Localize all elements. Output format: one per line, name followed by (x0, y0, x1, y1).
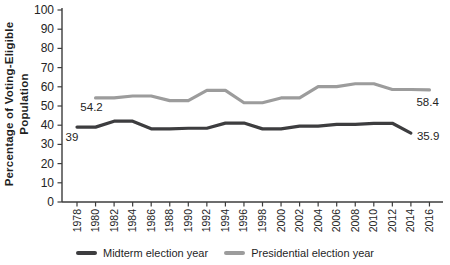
x-tick-label: 1994 (219, 209, 231, 233)
x-tick-label: 2012 (386, 209, 398, 233)
x-tick-label: 2004 (312, 209, 324, 233)
y-tick-label: 30 (41, 137, 55, 151)
x-tick-label: 1990 (182, 209, 194, 233)
midterm-line-swatch (76, 251, 97, 255)
y-tick-label: 80 (41, 41, 55, 55)
y-tick-label: 70 (41, 61, 55, 75)
y-tick-label: 40 (41, 118, 55, 132)
x-tick-label: 2000 (275, 209, 287, 233)
x-tick-label: 1984 (126, 209, 138, 233)
x-tick-label: 2006 (330, 209, 342, 233)
y-tick-label: 100 (34, 3, 54, 17)
y-tick-label: 90 (41, 22, 55, 36)
y-tick-label: 0 (47, 195, 54, 209)
x-tick-label: 1978 (71, 209, 83, 233)
series-line-midterm (77, 121, 411, 133)
legend-item-presidential: Presidential election year (224, 247, 374, 259)
data-label: 54.2 (80, 101, 102, 113)
data-label: 39 (66, 131, 79, 143)
legend: Midterm election year Presidential elect… (0, 243, 450, 263)
y-tick-label: 10 (41, 176, 55, 190)
x-tick-label: 1988 (163, 209, 175, 233)
x-tick-label: 1996 (237, 209, 249, 233)
legend-item-midterm: Midterm election year (76, 247, 208, 259)
y-tick-label: 50 (41, 99, 55, 113)
data-label: 58.4 (416, 96, 439, 108)
x-tick-label: 2008 (349, 209, 361, 233)
presidential-line-swatch (224, 251, 245, 255)
chart-figure: Percentage of Voting-Eligible Population… (0, 0, 450, 265)
x-tick-label: 2010 (367, 209, 379, 233)
x-tick-label: 1980 (89, 209, 101, 233)
legend-label-presidential: Presidential election year (251, 247, 374, 259)
x-tick-label: 1986 (145, 209, 157, 233)
y-tick-label: 20 (41, 157, 55, 171)
y-tick-label: 60 (41, 80, 55, 94)
x-tick-label: 2014 (404, 209, 416, 233)
line-chart-plot: 0102030405060708090100197819801982198419… (0, 0, 450, 265)
x-tick-label: 1992 (200, 209, 212, 233)
data-label: 35.9 (417, 130, 439, 142)
legend-label-midterm: Midterm election year (103, 247, 208, 259)
series-line-presidential (96, 84, 430, 103)
x-tick-label: 1982 (108, 209, 120, 233)
x-tick-label: 1998 (256, 209, 268, 233)
x-tick-label: 2002 (293, 209, 305, 233)
x-tick-label: 2016 (423, 209, 435, 233)
